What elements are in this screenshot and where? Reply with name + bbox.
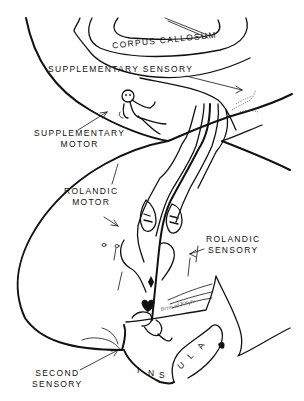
- label-rolandic-sensory-line2: SENSORY: [206, 245, 260, 256]
- label-insula-n: N: [148, 368, 155, 379]
- label-rolandic-motor: ROLANDIC MOTOR: [64, 186, 118, 208]
- label-supplementary-motor-line1: SUPPLEMENTARY: [34, 128, 125, 139]
- label-rolandic-motor-line2: MOTOR: [64, 197, 118, 208]
- label-supplementary-motor: SUPPLEMENTARY MOTOR: [34, 128, 125, 150]
- arrow-supplementary-sensory: [186, 76, 242, 93]
- diamond-mark: [148, 276, 154, 288]
- label-insula-s: S: [159, 370, 166, 381]
- eye-mark: [115, 245, 119, 248]
- face-region: [121, 240, 175, 292]
- motor-hand: [140, 200, 156, 231]
- precentral-gyrus-edge-left: [137, 106, 196, 262]
- sensory-hand: [166, 204, 182, 233]
- label-second-sensory: SECOND SENSORY: [32, 368, 83, 390]
- label-rolandic-sensory: ROLANDIC SENSORY: [206, 234, 260, 256]
- label-insula-i: I: [137, 365, 141, 376]
- notch-right: [222, 125, 262, 141]
- second-sensory-gyrus: [82, 328, 122, 350]
- label-second-sensory-line2: SENSORY: [32, 379, 83, 390]
- label-rolandic-motor-line1: ROLANDIC: [64, 186, 118, 197]
- insula-outline: [172, 325, 222, 382]
- arrow-rolandic-motor: [104, 217, 118, 226]
- lower-right-outline: [222, 141, 290, 170]
- label-rolandic-sensory-line1: ROLANDIC: [206, 234, 260, 245]
- eye-mark: [102, 244, 106, 247]
- brain-drawing: [0, 0, 304, 401]
- postcentral-gyrus-edge-right: [176, 104, 219, 222]
- diagram-canvas: CORPUS CALLOSUM SUPPLEMENTARY SENSORY SU…: [0, 0, 304, 401]
- label-supplementary-motor-line2: MOTOR: [34, 139, 125, 150]
- arrow-second-sensory: [80, 350, 118, 370]
- label-second-sensory-line1: SECOND: [32, 368, 83, 379]
- label-supplementary-sensory: SUPPLEMENTARY SENSORY: [48, 64, 193, 75]
